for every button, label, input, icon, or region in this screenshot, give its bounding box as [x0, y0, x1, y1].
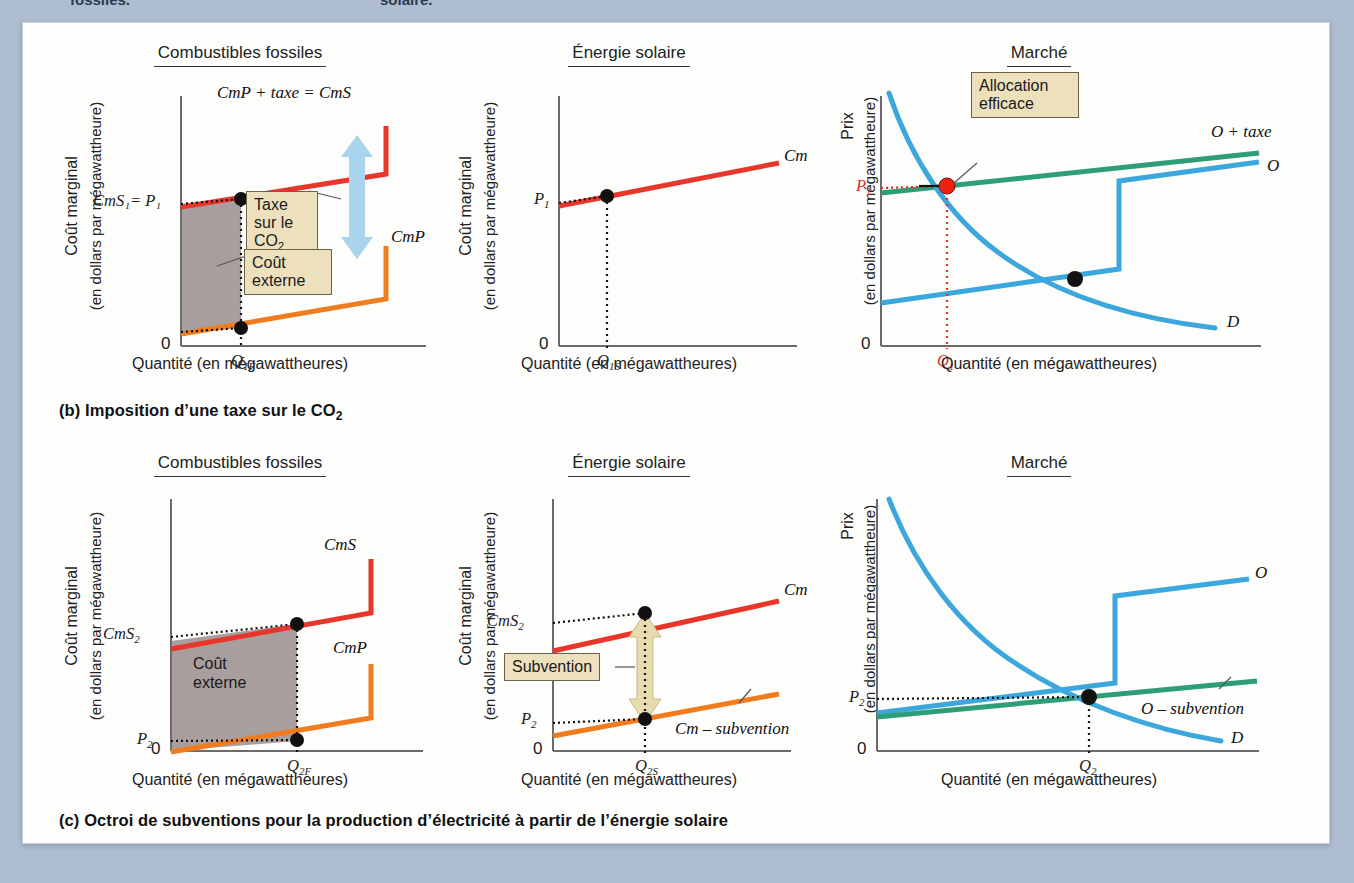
y-tick-p2: P2	[849, 687, 865, 708]
x-axis-label: Quantité (en mégawattheures)	[799, 355, 1299, 373]
callout-efficient-allocation: Allocation efficace	[971, 72, 1079, 118]
curve-label-private-cost: CmP	[391, 227, 425, 247]
figure-page: Combustibles fossiles Coût marginal (en …	[22, 22, 1330, 844]
panel-c-solar: Énergie solaire Coût marginal (en dollar…	[439, 441, 819, 811]
market-equilibrium-point	[1067, 271, 1083, 287]
chart-c-fossil	[41, 441, 439, 811]
origin-label: 0	[161, 334, 170, 354]
marginal-cost-curve	[553, 601, 779, 651]
callout-subvention: Subvention	[504, 653, 600, 681]
chart-c-market	[819, 441, 1319, 811]
cms2-guide	[553, 613, 645, 623]
origin-label: 0	[151, 739, 160, 759]
equilibrium-point-private	[290, 733, 304, 747]
curve-label-supply-minus-subvention: O – subvention	[1141, 699, 1244, 719]
curve-label-supply: O	[1255, 563, 1267, 583]
equilibrium-point-social	[290, 617, 304, 631]
y-tick-cms1-p1: CmS₁= P₁	[93, 191, 161, 211]
external-cost-area	[181, 199, 241, 334]
curve-label-demand: D	[1231, 728, 1243, 748]
cut-fragment-1: fossiles.	[70, 0, 130, 8]
caption-b: (b) Imposition d’une taxe sur le CO2	[59, 401, 342, 423]
origin-label: 0	[861, 334, 870, 354]
curve-label-supply: O	[1267, 156, 1279, 176]
allocation-callout-leader	[954, 163, 977, 183]
figure-row-c: Combustibles fossiles Coût marginal (en …	[23, 441, 1329, 811]
x-axis-label: Quantité (en mégawattheures)	[41, 355, 439, 373]
panel-c-market: Marché Prix (en dollars par mégawattheur…	[819, 441, 1319, 811]
equilibrium-point-cost	[638, 606, 652, 620]
curve-label-marginal-cost: Cm	[784, 146, 808, 166]
x-axis-label: Quantité (en mégawattheures)	[41, 771, 439, 789]
panel-b-market: Marché Prix (en dollars par mégawattheur…	[819, 31, 1319, 401]
curve-label-social-cost: CmS	[324, 535, 356, 555]
curve-label-social-cost: CmP + taxe = CmS	[217, 83, 351, 103]
tax-arrow	[341, 135, 373, 259]
y-tick-cms2: CmS2	[487, 611, 524, 632]
figure-row-b: Combustibles fossiles Coût marginal (en …	[23, 31, 1329, 401]
curve-label-demand: D	[1227, 312, 1239, 332]
origin-label: 0	[857, 739, 866, 759]
origin-label: 0	[539, 334, 548, 354]
external-cost-text: Coût externe	[193, 654, 246, 692]
panel-b-solar: Énergie solaire Coût marginal (en dollar…	[439, 31, 819, 401]
caption-c: (c) Octroi de subventions pour la produc…	[59, 811, 728, 830]
curve-label-private-cost: CmP	[333, 638, 367, 658]
cut-off-header-text: fossiles. solaire.	[0, 0, 1354, 14]
panel-b-fossil: Combustibles fossiles Coût marginal (en …	[41, 31, 439, 401]
callout-external-cost: Coût externe	[244, 249, 332, 295]
curve-label-cm-minus-subvention: Cm – subvention	[675, 719, 789, 739]
efficient-allocation-point	[939, 178, 955, 194]
y-tick-p2: P2	[521, 709, 537, 730]
curve-label-marginal-cost: Cm	[784, 580, 808, 600]
curve-label-supply-plus-tax: O + taxe	[1211, 122, 1272, 142]
equilibrium-point	[600, 189, 614, 203]
y-tick-p1: P1	[534, 189, 550, 210]
equilibrium-point-private	[234, 321, 248, 335]
market-equilibrium-point	[1081, 689, 1097, 705]
equilibrium-point-price	[638, 712, 652, 726]
marginal-cost-curve	[559, 163, 779, 206]
panel-c-fossil: Combustibles fossiles Coût marginal (en …	[41, 441, 439, 811]
cut-fragment-2: solaire.	[380, 0, 433, 8]
origin-label: 0	[533, 739, 542, 759]
y-tick-cms2: CmS2	[103, 624, 140, 645]
x-axis-label: Quantité (en mégawattheures)	[439, 771, 819, 789]
x-axis-label: Quantité (en mégawattheures)	[799, 771, 1299, 789]
callout-carbon-tax: Taxe sur le CO2	[246, 191, 318, 257]
x-axis-label: Quantité (en mégawattheures)	[439, 355, 819, 373]
y-tick-p1: P1	[856, 176, 872, 197]
chart-b-solar	[439, 31, 819, 401]
